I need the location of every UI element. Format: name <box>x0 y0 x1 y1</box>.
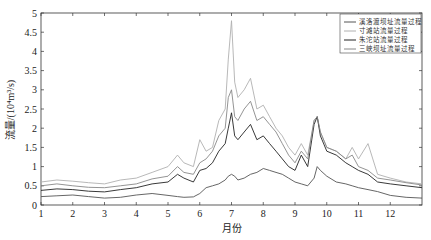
y-tick-label: 2.5 <box>25 104 38 115</box>
y-tick-label: 3 <box>32 84 37 95</box>
x-tick-label: 10 <box>322 208 332 219</box>
y-tick-label: 4.5 <box>25 27 38 38</box>
x-tick-label: 8 <box>261 208 266 219</box>
x-tick-label: 9 <box>293 208 298 219</box>
line-chart: 00.511.522.533.544.55 123456789101112 流量… <box>0 0 431 240</box>
y-tick-label: 3.5 <box>25 65 38 76</box>
legend: 溪洛渡坝址流量过程寸滩站流量过程朱沱站流量过程三峡坝址流量过程 <box>340 14 422 53</box>
x-tick-label: 6 <box>197 208 202 219</box>
y-tick-label: 2 <box>32 123 37 134</box>
y-tick-label: 1.5 <box>25 142 38 153</box>
x-tick-label: 2 <box>70 208 75 219</box>
x-tick-label: 7 <box>229 208 234 219</box>
x-tick-label: 3 <box>102 208 107 219</box>
y-tick-label: 1 <box>32 161 37 172</box>
legend-label: 朱沱站流量过程 <box>359 35 408 44</box>
y-tick-label: 4 <box>32 46 37 57</box>
x-tick-label: 12 <box>385 208 395 219</box>
y-tick-label: 0.5 <box>25 180 38 191</box>
legend-label: 三峡坝址流量过程 <box>359 44 415 53</box>
legend-label: 寸滩站流量过程 <box>359 26 408 35</box>
y-tick-label: 0 <box>32 200 37 211</box>
y-tick-label: 5 <box>32 8 37 19</box>
y-axis-title: 流量/(10⁴m³/s) <box>4 80 17 140</box>
x-tick-label: 11 <box>354 208 364 219</box>
x-tick-label: 4 <box>134 208 139 219</box>
x-axis-title: 月份 <box>222 223 242 234</box>
legend-label: 溪洛渡坝址流量过程 <box>359 17 422 26</box>
x-tick-label: 1 <box>39 208 44 219</box>
x-tick-label: 5 <box>166 208 171 219</box>
